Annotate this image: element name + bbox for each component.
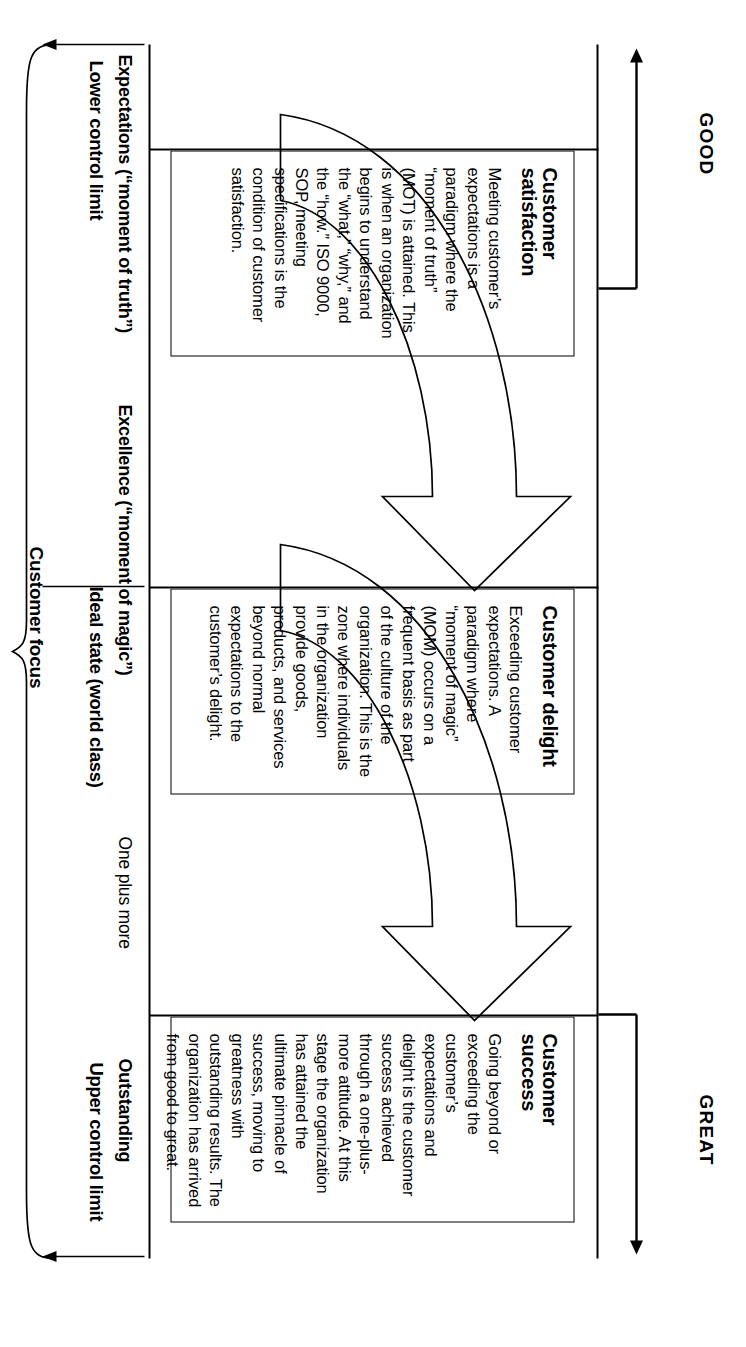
great-label: GREAT	[694, 1094, 716, 1165]
great-arrow-icon	[594, 1008, 658, 1258]
diagram-canvas: GOOD GREAT Customer satisfaction Meeting…	[0, 0, 746, 1347]
limit-label-ideal-state: Ideal state (world class)	[84, 586, 106, 787]
customer-focus-diagram: GOOD GREAT Customer satisfaction Meeting…	[0, 0, 746, 1347]
stage-body: Going beyond or exceeding the customer’s…	[161, 1033, 504, 1207]
frame-top-rule	[596, 44, 598, 1258]
limit-label-upper-control-limit: Upper control limit	[84, 1062, 106, 1221]
rotation-wrapper: GOOD GREAT Customer satisfaction Meeting…	[0, 0, 746, 1347]
limit-label-lower-control-limit: Lower control limit	[84, 60, 106, 220]
stage-title: Customer success	[517, 1033, 559, 1207]
customer-focus-label: Customer focus	[24, 546, 46, 688]
good-label: GOOD	[694, 112, 716, 175]
arrow-delight-to-success	[278, 534, 578, 1054]
good-arrow-icon	[594, 44, 658, 294]
